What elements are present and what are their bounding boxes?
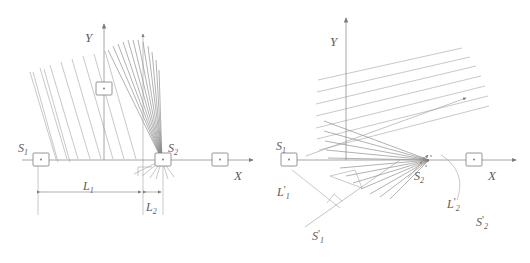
left-source-label-s2: S2 [168, 141, 178, 157]
right-diagonal-axis [306, 98, 466, 156]
right-rotated-baseline [305, 160, 400, 227]
figure-canvas: Y X S1 S2 L1 L2 Y X S1 S2 S'1 S'2 L'1 L'… [0, 0, 530, 263]
right-perpendicular-drop [292, 170, 340, 208]
right-y-axis-label: Y [330, 34, 339, 49]
diagram-svg: Y X S1 S2 L1 L2 Y X S1 S2 S'1 S'2 L'1 L'… [0, 0, 530, 263]
left-source-label-s1: S1 [18, 141, 28, 157]
left-y-axis-label: Y [85, 30, 94, 45]
left-source-marker-s1 [33, 153, 49, 166]
left-x-axis-marker [212, 153, 228, 166]
right-x-axis-marker [466, 153, 482, 166]
right-source-label-s2: S2 [414, 169, 424, 185]
left-dimension-label-l2: L2 [145, 200, 157, 216]
left-x-axis-label: X [233, 168, 243, 183]
left-y-axis-marker [96, 82, 112, 95]
right-angle-marker [327, 194, 342, 203]
right-x-axis-label: X [487, 168, 497, 183]
left-panel-group [22, 24, 253, 215]
left-parallel-ray-bundle [30, 51, 136, 162]
right-source-label-s2-prime: S'2 [476, 213, 488, 231]
right-aperture-wedge [330, 170, 362, 188]
right-source-label-s1: S1 [276, 139, 286, 155]
left-dimension-label-l1: L1 [82, 179, 94, 195]
right-panel-group [281, 18, 516, 227]
right-arc-annotation [441, 155, 460, 200]
right-source-label-s1-prime: S'1 [312, 227, 324, 245]
right-dimension-label-l1-prime: L'1 [276, 183, 290, 201]
